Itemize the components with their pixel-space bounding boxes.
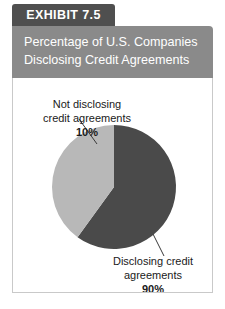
callout-not-disclosing-line-2: credit agreements [27,111,147,125]
exhibit-title-line-2: Disclosing Credit Agreements [24,51,205,69]
callout-disclosing: Disclosing credit agreements 90% [97,254,209,293]
chart-panel: Not disclosing credit agreements 10% Dis… [12,78,213,293]
exhibit-figure: EXHIBIT 7.5 Percentage of U.S. Companies… [0,0,225,309]
callout-disclosing-line-2: agreements [97,268,209,282]
exhibit-number-tab: EXHIBIT 7.5 [12,4,115,26]
exhibit-title-line-1: Percentage of U.S. Companies [24,33,205,51]
leader-line-disclosing [153,234,164,256]
exhibit-title-banner: Percentage of U.S. Companies Disclosing … [12,26,213,78]
exhibit-title: Percentage of U.S. Companies Disclosing … [24,33,205,69]
callout-not-disclosing-line-1: Not disclosing [27,97,147,111]
exhibit-number-label: EXHIBIT 7.5 [26,9,101,22]
callout-disclosing-value: 90% [97,282,209,293]
callout-not-disclosing: Not disclosing credit agreements 10% [27,97,147,139]
callout-not-disclosing-value: 10% [27,125,147,139]
callout-disclosing-line-1: Disclosing credit [97,254,209,268]
